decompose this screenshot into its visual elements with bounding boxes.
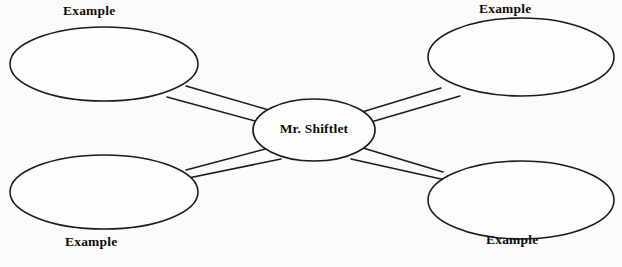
connector-top-right-line-a (362, 88, 441, 112)
node-ellipse-bottom-right[interactable] (428, 161, 614, 239)
connector-bottom-right-line-a (363, 148, 443, 172)
node-ellipse-bottom-left[interactable] (10, 155, 198, 229)
node-label-top-left: Example (63, 4, 115, 18)
connector-top-left-line-b (167, 97, 259, 122)
node-label-top-right: Example (479, 2, 531, 16)
connector-top-right (362, 88, 460, 122)
node-ellipse-top-left[interactable] (10, 27, 198, 101)
connector-bottom-right (351, 148, 459, 183)
node-ellipse-top-right[interactable] (428, 18, 614, 96)
connector-top-right-line-b (371, 96, 460, 122)
node-label-center: Mr. Shiftlet (253, 122, 375, 136)
node-label-bottom-left: Example (65, 235, 117, 249)
connector-bottom-left-line-a (186, 148, 269, 170)
connector-top-left (167, 86, 269, 122)
concept-map-diagram: Example Example Example Example Mr. Shif… (0, 0, 622, 267)
node-label-bottom-right: Example (486, 233, 538, 247)
connector-top-left-line-a (186, 86, 269, 110)
